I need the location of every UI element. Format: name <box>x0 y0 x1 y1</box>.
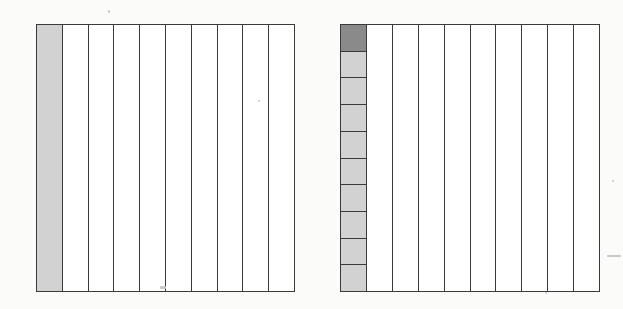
grid-column <box>269 25 294 291</box>
grid-column <box>218 25 244 291</box>
grid-column <box>166 25 192 291</box>
paper-speck <box>160 286 166 289</box>
grid-cell <box>341 78 366 105</box>
tenths-grid-left <box>36 24 295 292</box>
grid-column <box>243 25 269 291</box>
grid-cell <box>341 239 366 266</box>
grid-column <box>89 25 115 291</box>
grid-cell <box>341 132 366 159</box>
grid-cell <box>341 212 366 239</box>
paper-speck <box>258 100 260 102</box>
grid-column <box>419 25 445 291</box>
grid-column <box>367 25 393 291</box>
grid-cell <box>341 265 366 291</box>
grid-cell <box>341 52 366 79</box>
paper-speck <box>607 255 621 257</box>
grid-column <box>445 25 471 291</box>
grid-cell <box>341 185 366 212</box>
grid-column <box>114 25 140 291</box>
grid-column <box>192 25 218 291</box>
grid-cell <box>341 105 366 132</box>
grid-column <box>471 25 497 291</box>
grid-column <box>393 25 419 291</box>
grid-column <box>574 25 599 291</box>
grid-column <box>37 25 63 291</box>
grid-cell <box>341 25 366 52</box>
paper-speck <box>612 180 614 182</box>
grid-column <box>63 25 89 291</box>
paper-speck <box>108 10 110 13</box>
grid-column <box>140 25 166 291</box>
hundredths-grid-right <box>340 24 600 292</box>
grid-column <box>496 25 522 291</box>
grid-column <box>548 25 574 291</box>
grid-column <box>522 25 548 291</box>
grid-column <box>341 25 367 291</box>
grid-cell <box>341 159 366 186</box>
paper-speck <box>545 292 547 294</box>
